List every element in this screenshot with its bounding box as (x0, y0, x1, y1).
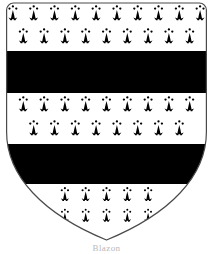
shield-figure (0, 0, 213, 244)
fess-upper (0, 51, 213, 93)
fess-lower (0, 144, 213, 184)
coat-of-arms-page: Blazon (0, 0, 213, 254)
figure-caption: Blazon (0, 243, 213, 254)
shield-graphic (0, 0, 213, 244)
